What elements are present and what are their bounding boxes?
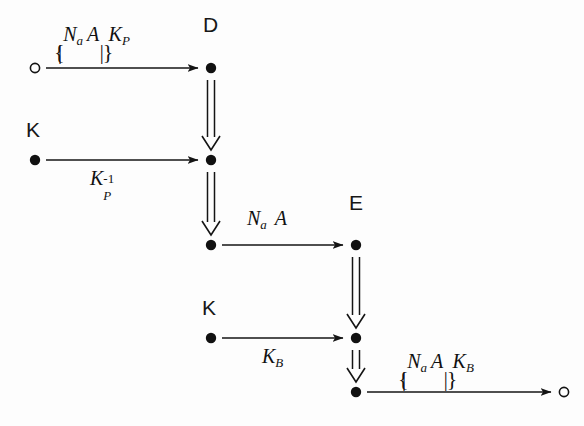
node-terminal-open-circle	[559, 387, 568, 396]
message-arrow-group	[46, 68, 551, 392]
protocol-diagram-canvas: D E K K { | Na A | } KP K -1 P Na A KB {…	[0, 0, 584, 426]
node-group	[30, 63, 569, 397]
strand-arrow-e-1	[347, 257, 365, 328]
strand-arrow-d-2	[202, 172, 220, 235]
strand-arrow-d-1	[202, 80, 220, 150]
node-origin-open-circle	[30, 63, 39, 72]
node-d1	[206, 63, 216, 73]
strand-label-k-upper: K	[26, 119, 40, 140]
key-subscript-p: P	[103, 189, 111, 202]
node-e3	[351, 387, 361, 397]
key-subscript-b: B	[275, 355, 283, 370]
message-label-encrypted-na-a-kb: { | Na A | } KB	[398, 351, 474, 371]
key-superscript-inverse: -1	[103, 172, 114, 185]
node-k1	[30, 155, 40, 165]
strand-arrow-group	[202, 80, 365, 382]
key-subscript-b: B	[466, 360, 474, 375]
diagram-vector-layer	[0, 0, 584, 426]
key-k: K	[262, 345, 275, 367]
principal-a: A	[275, 207, 287, 229]
node-e2	[351, 333, 361, 343]
principal-a: A	[87, 23, 99, 45]
strand-label-d: D	[203, 14, 218, 35]
message-label-private-key-kp-inverse: K -1 P	[90, 168, 122, 188]
strand-label-k-lower: K	[202, 297, 216, 318]
message-label-key-kb: KB	[262, 346, 283, 366]
node-d3	[206, 240, 216, 250]
principal-a: A	[431, 350, 443, 372]
strand-arrow-e-2	[347, 350, 365, 382]
nonce-subscript-a: a	[421, 360, 428, 375]
nonce-n: N	[63, 23, 76, 45]
nonce-subscript-a: a	[260, 217, 267, 232]
strand-label-e: E	[349, 192, 363, 213]
node-k2	[206, 333, 216, 343]
key-k: K	[90, 167, 103, 189]
node-d2	[206, 155, 216, 165]
nonce-n: N	[247, 207, 260, 229]
nonce-subscript-a: a	[77, 33, 84, 48]
message-label-na-a: Na A	[247, 208, 287, 228]
key-subscript-p: P	[122, 33, 130, 48]
message-label-encrypted-na-a-kp: { | Na A | } KP	[54, 24, 130, 44]
node-e1	[351, 240, 361, 250]
nonce-n: N	[407, 350, 420, 372]
